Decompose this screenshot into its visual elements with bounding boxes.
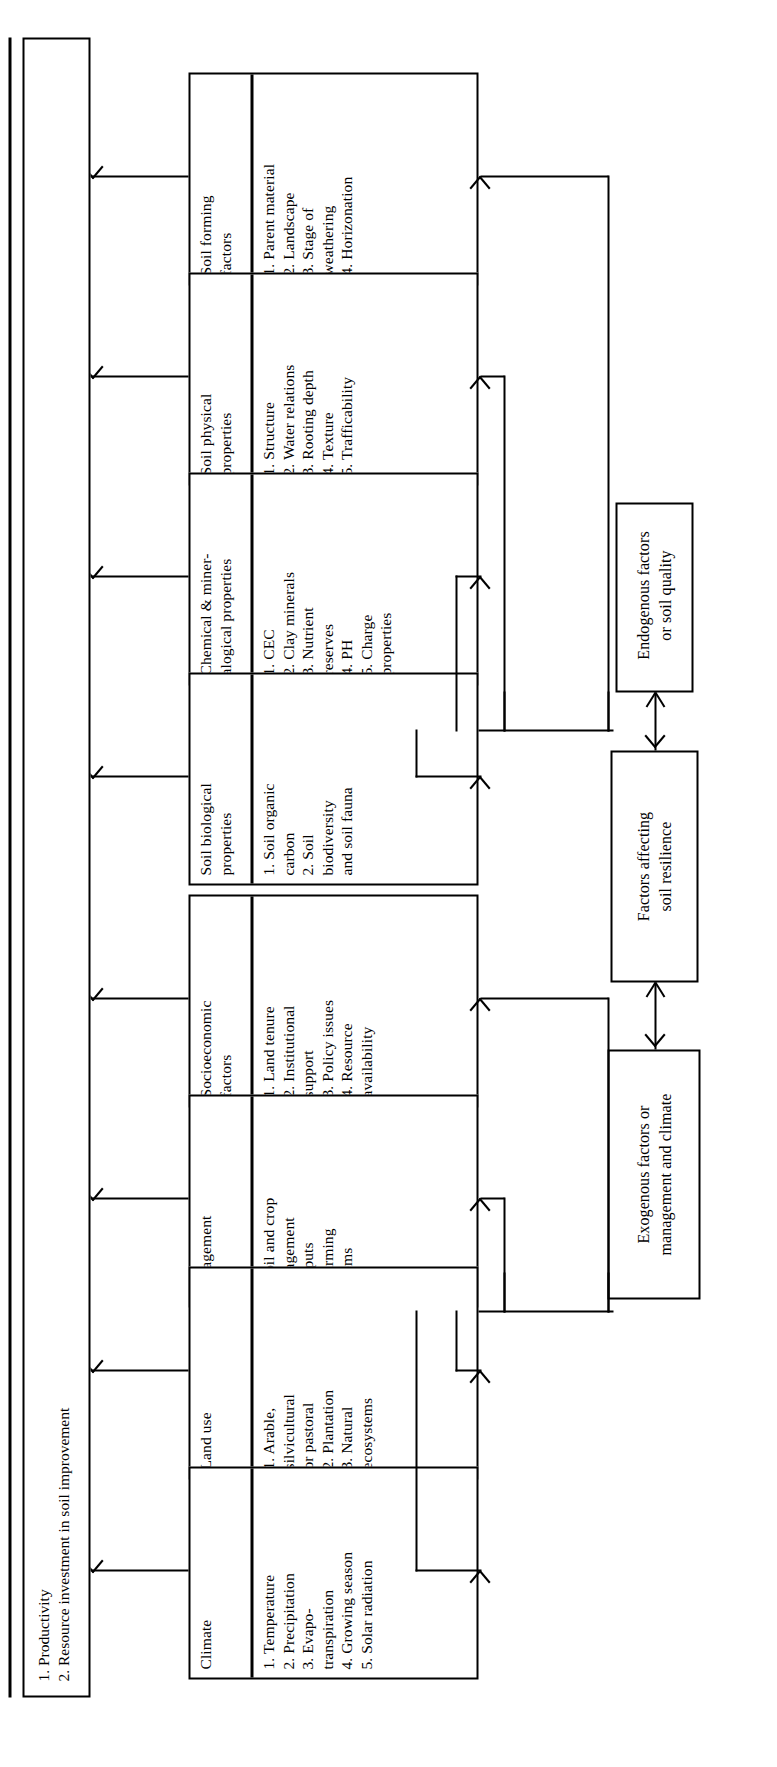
factor-items-soil-biological-properties: 1. Soil organic carbon2. Soil biodiversi… (258, 675, 356, 875)
list-item: 2. Clay minerals (278, 475, 298, 675)
list-item: 3. Stage of weathering (297, 75, 336, 275)
output-line-socioeconomic-factors (90, 997, 188, 999)
factor-title-soil-biological-properties: Soil biological properties (195, 678, 247, 875)
feed-land-use (455, 1310, 457, 1371)
outcome-box: 1. Productivity2. Resource investment in… (22, 37, 90, 1697)
factor-items-chemical-mineralogical-properties: 1. CEC2. Clay minerals3. Nutrient reserv… (258, 475, 395, 675)
group-box-exogenous: Exogenous factors or management and clim… (607, 1049, 700, 1299)
factor-box-soil-biological-properties: Soil biological properties 1. Soil organ… (188, 672, 478, 885)
feed-management (503, 1197, 505, 1312)
box-divider (250, 896, 253, 1105)
factor-items-climate: 1. Temperature2. Precipitation3. Evapo- … (258, 1469, 375, 1669)
factor-items-soil-forming-factors: 1. Parent material2. Landscape3. Stage o… (258, 75, 356, 275)
feed-socioeconomic-factors (607, 997, 609, 1312)
stem-soil-physical-properties (480, 375, 504, 377)
factor-title-socioeconomic-factors: Socioeconomic factors (195, 900, 247, 1097)
factor-title-chemical-mineralogical-properties: Chemical & miner- alogical properties (195, 478, 247, 675)
group-box-resilience: Factors affecting soil resilience (610, 750, 698, 982)
diagram-stage: Endogenous factors or soil quality Facto… (0, 0, 777, 1767)
stem-climate (415, 1569, 481, 1571)
box-divider (250, 74, 253, 283)
list-item: 2. Institutional support (278, 897, 317, 1097)
output-line-soil-biological-properties (90, 775, 188, 777)
list-item: 1. Soil organic carbon (258, 675, 297, 875)
factor-title-climate: Climate (195, 1472, 247, 1669)
box-divider (250, 474, 253, 683)
list-item: 5. Charge properties (356, 475, 395, 675)
connector-endogenous-resilience (654, 692, 656, 750)
feed-climate (415, 1310, 417, 1571)
stem-land-use (455, 1369, 481, 1371)
list-item: 4. Resource availability (336, 897, 375, 1097)
list-item: 4. PH (336, 475, 356, 675)
feed-chemical-mineralogical-properties (455, 575, 457, 731)
list-item: 4. Texture (317, 275, 337, 475)
factor-box-socioeconomic-factors: Socioeconomic factors 1. Land tenure2. I… (188, 894, 478, 1107)
output-line-soil-forming-factors (90, 175, 188, 177)
factor-box-land-use: Land use 1. Arable, silvicultural or pas… (188, 1266, 478, 1479)
connector-resilience-exogenous (654, 982, 656, 1049)
output-line-climate (90, 1569, 188, 1571)
list-item: 3. Natural ecosystems (336, 1269, 375, 1469)
list-item: 4. Growing season (336, 1469, 356, 1669)
list-item: 1. Parent material (258, 75, 278, 275)
stem-socioeconomic-factors (480, 997, 608, 999)
stem-management (480, 1197, 504, 1199)
list-item: 2. Landscape (278, 75, 298, 275)
list-item: 2. Resource investment in soil improveme… (53, 51, 73, 1681)
group-box-endogenous: Endogenous factors or soil quality (615, 502, 693, 692)
feed-soil-physical-properties (503, 375, 505, 731)
list-item: 3. Evapo- transpiration (297, 1469, 336, 1669)
factor-items-socioeconomic-factors: 1. Land tenure2. Institutional support3.… (258, 897, 375, 1097)
output-line-chemical-mineralogical-properties (90, 575, 188, 577)
output-line-soil-physical-properties (90, 375, 188, 377)
factor-title-land-use: Land use (195, 1272, 247, 1469)
list-item: 3. Rooting depth (297, 275, 317, 475)
list-item: 1. Productivity (33, 51, 53, 1681)
factor-box-soil-forming-factors: Soil forming factors 1. Parent material2… (188, 72, 478, 285)
box-divider (250, 274, 253, 483)
list-item: 1. CEC (258, 475, 278, 675)
factor-box-soil-physical-properties: Soil physical properties 1. Structure2. … (188, 272, 478, 485)
list-item: 3. Nutrient reserves (297, 475, 336, 675)
list-item: 1. Temperature (258, 1469, 278, 1669)
stem2-chemical-mineralogical-properties (455, 575, 481, 577)
list-item: 1. Arable, silvicultural or pastoral (258, 1269, 317, 1469)
list-item: 1. Land tenure (258, 897, 278, 1097)
list-item: 3. Policy issues (317, 897, 337, 1097)
outcome-rail (8, 37, 11, 1697)
group-label-endogenous: Endogenous factors or soil quality (617, 500, 691, 690)
box-divider (250, 674, 253, 883)
feed2-soil-biological-properties (415, 729, 417, 777)
box-divider (250, 1268, 253, 1477)
list-item: 5. Trafficability (336, 275, 356, 475)
list-item: 5. Solar radiation (356, 1469, 376, 1669)
list-item: 2. Precipitation (278, 1469, 298, 1669)
factor-title-soil-forming-factors: Soil forming factors (195, 78, 247, 275)
box-divider (250, 1468, 253, 1677)
list-item: 2. Plantation (317, 1269, 337, 1469)
factor-items-soil-physical-properties: 1. Structure2. Water relations3. Rooting… (258, 275, 356, 475)
group-label-resilience: Factors affecting soil resilience (612, 752, 696, 980)
factor-items-land-use: 1. Arable, silvicultural or pastoral2. P… (258, 1269, 375, 1469)
output-line-land-use (90, 1369, 188, 1371)
outcome-items: 1. Productivity2. Resource investment in… (33, 51, 73, 1681)
output-line-management (90, 1197, 188, 1199)
stem-soil-biological-properties (415, 775, 481, 777)
stem-soil-forming-factors (480, 175, 608, 177)
feed-soil-forming-factors (607, 175, 609, 731)
group-label-exogenous: Exogenous factors or management and clim… (609, 1051, 698, 1297)
list-item: 1. Structure (258, 275, 278, 475)
list-item: 2. Soil biodiversity and soil fauna (297, 675, 356, 875)
factor-title-soil-physical-properties: Soil physical properties (195, 278, 247, 475)
diagram-canvas: Endogenous factors or soil quality Facto… (0, 0, 777, 1767)
list-item: 4. Horizonation (336, 75, 356, 275)
factor-box-chemical-mineralogical-properties: Chemical & miner- alogical properties 1.… (188, 472, 478, 685)
list-item: 2. Water relations (278, 275, 298, 475)
factor-box-climate: Climate 1. Temperature2. Precipitation3.… (188, 1466, 478, 1679)
